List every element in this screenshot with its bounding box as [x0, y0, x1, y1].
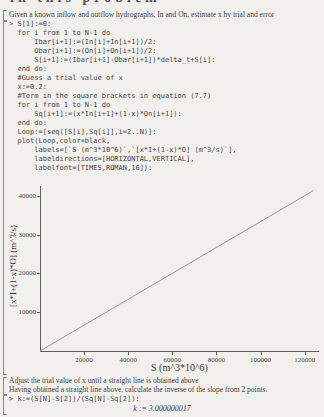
code-line: for i from 1 to N-1 do [9, 101, 237, 110]
x-tick [261, 352, 262, 355]
code-line: plot(Loop,color=black, [9, 137, 237, 146]
final-input: > k:=(S[N]-S[2])/(Sq[N]-Sq[2]): [9, 395, 140, 404]
code-line: labeldirections=[HORIZONTAL,VERTICAL], [9, 155, 237, 164]
y-tick-label: 10000 [8, 308, 36, 316]
code-line: Ibar[i+1]:=(In[i]+In[i+1])/2: [9, 38, 237, 47]
y-tick [37, 235, 40, 236]
worksheet-page: in this problem Given a known inflow and… [0, 0, 324, 417]
final-output: k := 3.000000017 [0, 404, 324, 413]
clipped-heading: in this problem [10, 0, 290, 7]
code-line: labels=[`S (m^3*10^6)`,`[x*I+(1-x)*O] (m… [9, 146, 237, 155]
x-tick [216, 352, 217, 355]
intro-text: Given a known inflow and outflow hydrogr… [9, 10, 274, 19]
y-tick-label: 40000 [8, 192, 36, 200]
x-axis [40, 351, 319, 352]
y-axis [40, 186, 41, 352]
x-tick [172, 352, 173, 355]
group-bracket-comment [3, 377, 7, 395]
data-line [40, 191, 314, 352]
code-line: #Guess a trial value of x [9, 74, 237, 83]
data-line-layer [0, 176, 324, 376]
group-bracket-intro [3, 10, 7, 21]
code-line: end do: [9, 65, 237, 74]
code-line: Loop:=[seq([S[i],Sq[i]],i=2..N)]: [9, 128, 237, 137]
code-line: Obar[i+1]:=(On[i]+On[i+1])/2: [9, 47, 237, 56]
x-tick [305, 352, 306, 355]
code-line: > S[1]:=0: [9, 20, 237, 29]
y-tick [37, 273, 40, 274]
code-line: x:=0.2: [9, 83, 237, 92]
code-line: S[i+1]:=(Ibar[i+1]-Obar[i+1])*delta_t+S[… [9, 56, 237, 65]
clipped-heading-text: in this problem [10, 0, 290, 6]
code-line: Sq[i+1]:=(x*In[i+1]+(1-x)*On[i+1]): [9, 110, 237, 119]
y-axis-label: [x*I+(1-x)*O] (m^3/s) [8, 225, 18, 307]
comment-line-1: Adjust the trial value of x until a stra… [9, 376, 199, 385]
code-line: for i from 1 to N-1 do [9, 29, 237, 38]
code-block: > S[1]:=0: for i from 1 to N-1 do Ibar[i… [9, 20, 237, 173]
y-tick [37, 196, 40, 197]
code-line: end do: [9, 119, 237, 128]
x-tick [84, 352, 85, 355]
code-line: labelfont=[TIMES,ROMAN,16]): [9, 164, 237, 173]
code-line: #Term in the square brackets in equation… [9, 92, 237, 101]
y-tick [37, 312, 40, 313]
plot: 2000040000600008000010000012000010000200… [0, 176, 324, 376]
x-tick [128, 352, 129, 355]
x-axis-label: S (m^3*10^6) [40, 362, 319, 373]
comment-line-2: Having obtained a straight line above, c… [9, 385, 267, 394]
